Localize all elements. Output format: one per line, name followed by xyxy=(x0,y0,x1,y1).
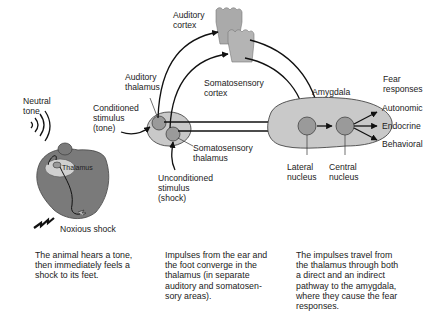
cortex-blocks xyxy=(216,8,254,62)
lateral-nucleus-node xyxy=(298,117,316,135)
auditory-cortex-label: Auditory cortex xyxy=(173,10,205,30)
fear-response-autonomic: Autonomic xyxy=(382,103,423,113)
auditory-thalamus-label: Auditory thalamus xyxy=(125,72,160,92)
unconditioned-stimulus-arrow xyxy=(172,142,175,170)
fear-response-endocrine: Endocrine xyxy=(382,121,421,131)
amygdala-label: Amygdala xyxy=(312,87,350,97)
lateral-nucleus-label: Lateral nucleus xyxy=(287,162,317,182)
caption-step-2: Impulses from the ear and the foot conve… xyxy=(165,250,267,301)
amygdala-region xyxy=(268,97,392,148)
conditioned-stimulus-label: Conditioned stimulus (tone) xyxy=(93,103,139,133)
somatosensory-thalamus-label: Somatosensory thalamus xyxy=(193,143,253,163)
neutral-tone-label: Neutral tone xyxy=(23,96,51,116)
caption-step-3: The impulses travel from the thalamus th… xyxy=(296,250,398,311)
mouse-thalamus-label: Thalamus xyxy=(62,163,93,173)
fear-responses-label: Fear responses xyxy=(383,74,423,94)
auditory-thalamus-node xyxy=(152,116,166,130)
thalamus-region xyxy=(147,112,191,146)
somatosensory-cortex-label: Somatosensory cortex xyxy=(204,78,264,98)
central-nucleus-node xyxy=(336,117,354,135)
central-nucleus-label: Central nucleus xyxy=(329,162,359,182)
unconditioned-stimulus-label: Unconditioned stimulus (shock) xyxy=(158,173,213,203)
caption-step-1: The animal hears a tone, then immediatel… xyxy=(35,250,132,281)
lightning-bolt-icon xyxy=(34,218,54,228)
somatosensory-cortex-block xyxy=(228,30,254,62)
noxious-shock-label: Noxious shock xyxy=(60,224,116,234)
somatosensory-thalamus-node xyxy=(166,127,180,141)
fear-response-behavioral: Behavioral xyxy=(382,139,423,149)
mouse-illustration xyxy=(37,143,109,219)
